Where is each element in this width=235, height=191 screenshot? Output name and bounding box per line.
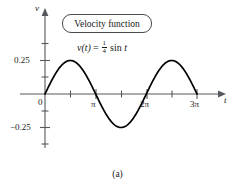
x-tick-label-2pi: 2π [140,100,149,109]
x-tick-label-3pi: 3π [190,100,199,109]
y-axis-label: v [35,4,39,13]
x-axis-label: t [224,96,227,105]
fraction-denominator: 4 [102,48,108,55]
velocity-function-callout: Velocity function [62,14,152,33]
callout-label: Velocity function [74,19,140,29]
equation-equals: = [93,42,99,53]
fraction-numerator: 1 [102,40,108,47]
velocity-function-figure: v t 0 π 2π 3π 0.25 −0.25 Velocity functi… [0,0,235,191]
equation-fraction: 1 4 [102,40,108,56]
equation-rhs: sin t [110,42,127,53]
equation-lhs: v(t) [77,42,91,53]
figure-caption: (a) [0,169,235,179]
y-tick-label-negative: −0.25 [10,123,31,132]
x-tick-label-0: 0 [38,98,43,107]
y-tick-label-positive: 0.25 [14,56,30,65]
equation-annotation: v(t) = 1 4 sin t [77,40,127,56]
x-tick-label-pi: π [91,100,96,109]
